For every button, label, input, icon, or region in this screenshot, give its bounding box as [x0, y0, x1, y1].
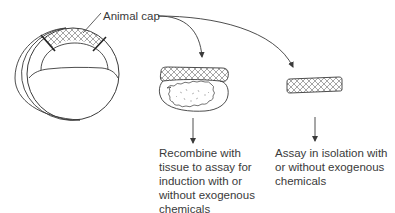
embryo-outline: [27, 28, 119, 120]
caption-isolation-line: chemicals: [275, 174, 388, 188]
caption-recombine-line: chemicals: [159, 202, 255, 213]
caption-isolation-line: or without exogenous: [275, 160, 388, 174]
arrow-to-isolated: [158, 16, 293, 67]
caption-recombine-line: induction with or: [159, 174, 255, 188]
caption-recombine: Recombine with tissue to assay for induc…: [159, 146, 255, 213]
caption-isolation-line: Assay in isolation with: [275, 146, 388, 160]
recombinant-cap: [160, 67, 228, 81]
caption-recombine-line: without exogenous: [159, 188, 255, 202]
caption-recombine-line: tissue to assay for: [159, 160, 255, 174]
recombinant-tissue: [159, 67, 228, 111]
animal-cap-leader-line: [83, 13, 101, 33]
animal-cap-label: Animal cap: [103, 9, 160, 23]
recombinant-inner-tissue: [167, 81, 215, 107]
embryo: [15, 28, 119, 120]
blastocoel-floor: [29, 67, 118, 78]
arrow-to-recombinant: [158, 16, 202, 57]
isolated-animal-cap: [287, 77, 342, 93]
caption-isolation: Assay in isolation with or without exoge…: [275, 146, 388, 188]
caption-recombine-line: Recombine with: [159, 146, 255, 160]
